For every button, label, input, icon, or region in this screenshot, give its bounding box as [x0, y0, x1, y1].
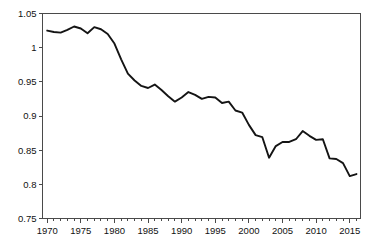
- x-tick-label: 1985: [137, 225, 158, 236]
- x-tick-label: 2015: [339, 225, 360, 236]
- y-tick-label: 0.9: [23, 110, 36, 121]
- line-chart: 1.0510.950.90.850.80.75 1970197519801985…: [0, 0, 373, 250]
- x-tick-label: 1990: [171, 225, 192, 236]
- y-tick-label: 0.85: [18, 145, 37, 156]
- x-tick-label: 1975: [70, 225, 91, 236]
- y-tick-label: 0.95: [18, 76, 37, 87]
- chart-container: 1.0510.950.90.850.80.75 1970197519801985…: [0, 0, 373, 250]
- x-tick-label: 2000: [238, 225, 259, 236]
- x-tick-label: 1970: [37, 225, 58, 236]
- y-tick-label: 0.75: [18, 213, 37, 224]
- y-tick-label: 1: [31, 42, 36, 53]
- x-axis-tick-labels: 1970197519801985199019952000200520102015: [37, 225, 361, 236]
- y-axis-tick-labels: 1.0510.950.90.850.80.75: [18, 8, 37, 224]
- x-tick-label: 1995: [205, 225, 226, 236]
- data-series-line: [47, 26, 356, 176]
- x-tick-label: 2005: [272, 225, 293, 236]
- x-tick-label: 1980: [104, 225, 125, 236]
- y-tick-label: 1.05: [18, 8, 37, 19]
- x-tick-label: 2010: [306, 225, 327, 236]
- axis-tick-marks: [39, 14, 356, 224]
- plot-frame: [43, 14, 361, 219]
- y-tick-label: 0.8: [23, 179, 36, 190]
